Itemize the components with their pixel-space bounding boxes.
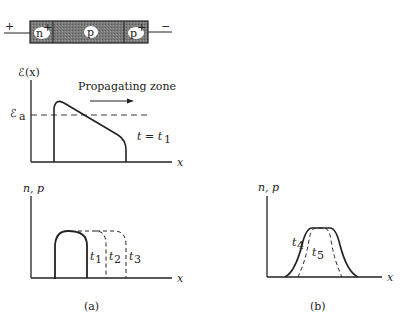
curve-t1: [54, 231, 87, 278]
carrier-a-x-axis-label: x: [177, 272, 184, 285]
carrier-b-y-axis-label: n, p: [258, 181, 279, 194]
svg-text:a: a: [19, 110, 26, 123]
svg-text:+: +: [137, 21, 146, 34]
svg-text:+: +: [43, 21, 52, 34]
svg-text:p: p: [87, 26, 94, 39]
field-y-axis-label: ℰ(x): [18, 66, 40, 79]
diagram-canvas: + − n + p p + ℰ(x) x ℰ a Propagating zon…: [0, 0, 404, 328]
arrow-right-icon: [127, 99, 134, 104]
threshold-label: ℰ: [10, 107, 17, 120]
carrier-b-x-axis-label: x: [387, 271, 394, 284]
field-profile-curve: [54, 101, 126, 162]
svg-text:3: 3: [134, 253, 141, 266]
panel-label-a: (a): [84, 300, 99, 313]
minus-terminal-label: −: [161, 20, 170, 33]
carrier-a-y-axis-label: n, p: [23, 182, 44, 195]
panel-label-b: (b): [310, 300, 326, 313]
svg-text:p: p: [130, 27, 137, 40]
plus-terminal-label: +: [5, 20, 14, 33]
carrier-plot-a: n, p x t 1 t 2 t 3 (a): [23, 182, 184, 313]
field-x-axis-label: x: [177, 156, 184, 169]
field-plot: ℰ(x) x ℰ a Propagating zone t = t 1: [10, 66, 184, 169]
svg-text:5: 5: [317, 249, 324, 262]
svg-text:4: 4: [297, 239, 304, 252]
svg-text:1: 1: [95, 253, 102, 266]
time-label: t = t: [137, 130, 163, 143]
svg-text:1: 1: [164, 133, 171, 146]
carrier-plot-b: n, p x t 4 t 5 (b): [258, 181, 394, 313]
device-diagram: + − n + p p +: [4, 20, 172, 43]
propagating-zone-label: Propagating zone: [78, 80, 176, 93]
svg-text:2: 2: [114, 253, 121, 266]
